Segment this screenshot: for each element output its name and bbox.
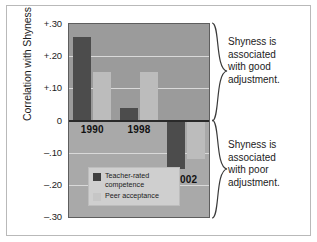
year-label-1998: 1998: [128, 124, 151, 135]
zero-line: [69, 120, 209, 122]
legend-label-teacher-rated: Teacher-ratedcompetence: [105, 172, 149, 189]
frame-border-left: [6, 5, 7, 236]
legend: Teacher-ratedcompetence Peer acceptance: [88, 167, 180, 206]
y-axis-tick-5: –.20: [44, 178, 62, 189]
y-axis-tick-labels: +.30+.20+.100–.10–.20–.30: [28, 23, 64, 218]
annotation-good-adjustment: Shyness is associated with good adjustme…: [228, 36, 312, 86]
legend-item-teacher-rated-competence: Teacher-ratedcompetence: [93, 172, 175, 189]
annotation-good-line2: associated: [228, 49, 276, 60]
frame-border-top: [6, 5, 311, 6]
y-axis-tick-2: +.10: [44, 82, 62, 93]
bar-1990-peer-acceptance: [93, 72, 111, 120]
annotation-good-line3: with good: [228, 61, 271, 72]
annotation-good-line1: Shyness is: [228, 36, 276, 47]
annotation-poor-line4: adjustment.: [228, 177, 280, 188]
annotation-poor-adjustment: Shyness is associated with poor adjustme…: [228, 139, 312, 189]
legend-swatch-icon-peer-acceptance: [93, 193, 101, 201]
plot-area: 199019982002 Teacher-ratedcompetence Pee…: [68, 23, 210, 218]
legend-label-teacher-rated-line2: competence: [105, 180, 144, 189]
bar-1990-teacher-rated: [73, 37, 91, 121]
year-label-1990: 1990: [81, 124, 104, 135]
brace-poor-icon: [210, 119, 230, 220]
y-axis-tick-3: 0: [57, 114, 62, 125]
annotation-poor-line1: Shyness is: [228, 139, 276, 150]
y-axis-tick-4: –.10: [44, 146, 62, 157]
annotation-poor-line3: with poor: [228, 164, 269, 175]
bar-1998-peer-acceptance: [140, 72, 158, 120]
y-axis-tick-1: +.20: [44, 50, 62, 61]
legend-item-peer-acceptance: Peer acceptance: [93, 192, 175, 201]
frame-border-bottom: [6, 235, 311, 236]
y-axis-tick-6: –.30: [44, 211, 62, 222]
y-axis-tick-0: +.30: [44, 18, 62, 29]
bar-2002-peer-acceptance: [187, 121, 205, 160]
annotation-good-line4: adjustment.: [228, 74, 280, 85]
annotation-poor-line2: associated: [228, 152, 276, 163]
legend-label-peer-acceptance: Peer acceptance: [105, 192, 159, 200]
legend-swatch-icon-teacher-rated: [93, 173, 101, 181]
figure-container: Correlation with Shyness +.30+.20+.100–.…: [0, 0, 317, 242]
bar-2002-teacher-rated: [167, 121, 185, 169]
brace-good-icon: [210, 21, 230, 123]
